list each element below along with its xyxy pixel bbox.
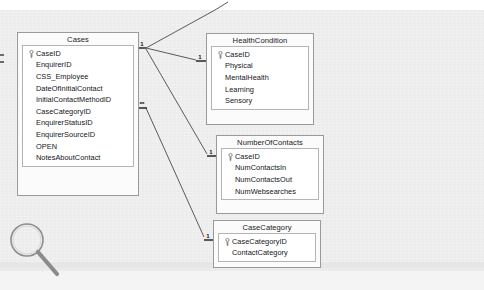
table-title-casecategory: CaseCategory <box>214 221 320 233</box>
field-row[interactable]: OPEN <box>23 141 133 153</box>
field-row[interactable]: CaseID <box>212 49 308 61</box>
field-name: EnquirerSourceID <box>36 130 95 140</box>
relationships-diagram-screenshot: Cases CaseID EnquirerID CSS_Employee <box>0 0 484 290</box>
field-row[interactable]: InitialContactMethodID <box>23 94 133 106</box>
page-bottom-margin <box>0 271 484 290</box>
magnifier-icon <box>8 222 66 282</box>
primary-key-icon <box>222 238 232 246</box>
field-name: EnquirerStatusID <box>36 118 93 128</box>
primary-key-icon <box>26 50 36 58</box>
field-row[interactable]: Sensory <box>212 95 308 107</box>
field-name: CaseID <box>225 50 250 60</box>
field-name: CaseCategoryID <box>232 237 287 247</box>
field-row[interactable]: NotesAboutContact <box>23 152 133 164</box>
table-title-cases: Cases <box>18 33 138 45</box>
table-box-cases[interactable]: Cases CaseID EnquirerID CSS_Employee <box>17 32 139 196</box>
table-title-numberofcontacts: NumberOfContacts <box>217 136 323 148</box>
field-row[interactable]: EnquirerID <box>23 60 133 72</box>
cardinality-marker-cases-many: ∞ <box>137 100 147 106</box>
field-row[interactable]: NumWebsearches <box>222 186 318 198</box>
field-name: CaseID <box>235 152 260 162</box>
field-name: EnquirerID <box>36 60 72 70</box>
table-title-healthcondition: HealthCondition <box>207 34 313 46</box>
field-name: Sensory <box>225 96 252 106</box>
field-row[interactable]: CSS_Employee <box>23 71 133 83</box>
field-row[interactable]: Physical <box>212 61 308 73</box>
table-box-healthcondition[interactable]: HealthCondition CaseID Physical MentalHe… <box>206 33 314 125</box>
field-row[interactable]: CaseCategoryID <box>219 236 315 248</box>
cardinality-marker-casecategory-one: 1 <box>204 233 212 239</box>
primary-key-icon <box>225 153 235 161</box>
field-name: Learning <box>225 85 254 95</box>
field-list-cases[interactable]: CaseID EnquirerID CSS_Employee DateOfIni… <box>22 45 134 167</box>
table-box-numberofcontacts[interactable]: NumberOfContacts CaseID NumContactsIn Nu… <box>216 135 324 214</box>
field-row[interactable]: CaseCategoryID <box>23 106 133 118</box>
field-name: NumWebsearches <box>235 187 296 197</box>
field-name: NumContactsOut <box>235 175 292 185</box>
cardinality-marker-numberofcontacts-one: 1 <box>207 149 215 155</box>
field-name: NumContactsIn <box>235 163 286 173</box>
primary-key-icon <box>215 51 225 59</box>
field-name: DateOfInitialContact <box>36 84 103 94</box>
cardinality-marker-healthcondition-one: 1 <box>196 54 204 60</box>
field-name: ContactCategory <box>232 248 288 258</box>
field-row[interactable]: CaseID <box>222 151 318 163</box>
field-row[interactable]: DateOfInitialContact <box>23 83 133 95</box>
field-row[interactable]: NumContactsOut <box>222 174 318 186</box>
field-list-numberofcontacts[interactable]: CaseID NumContactsIn NumContactsOut NumW… <box>221 148 319 200</box>
field-row[interactable]: ContactCategory <box>219 248 315 260</box>
field-name: CaseCategoryID <box>36 107 91 117</box>
cardinality-marker-cases-one: 1 <box>138 41 146 47</box>
field-name: MentalHealth <box>225 73 269 83</box>
field-name: NotesAboutContact <box>36 153 100 163</box>
table-box-casecategory[interactable]: CaseCategory CaseCategoryID ContactCateg… <box>213 220 321 268</box>
field-row[interactable]: Learning <box>212 84 308 96</box>
field-row[interactable]: EnquirerStatusID <box>23 118 133 130</box>
field-list-casecategory[interactable]: CaseCategoryID ContactCategory <box>218 233 316 262</box>
field-row[interactable]: MentalHealth <box>212 72 308 84</box>
field-list-healthcondition[interactable]: CaseID Physical MentalHealth Learning Se… <box>211 46 309 110</box>
field-row[interactable]: NumContactsIn <box>222 163 318 175</box>
field-row[interactable]: CaseID <box>23 48 133 60</box>
field-name: CSS_Employee <box>36 72 88 82</box>
field-name: CaseID <box>36 49 61 59</box>
field-name: Physical <box>225 61 253 71</box>
field-name: OPEN <box>36 142 57 152</box>
field-name: InitialContactMethodID <box>36 95 111 105</box>
field-row[interactable]: EnquirerSourceID <box>23 129 133 141</box>
